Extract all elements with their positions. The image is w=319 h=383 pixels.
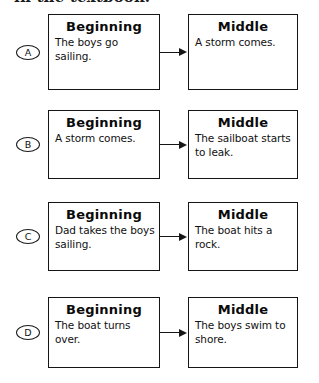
middle-box-heading: Middle — [191, 302, 295, 317]
middle-box[interactable]: MiddleThe sailboat starts to leak. — [188, 110, 298, 179]
flow-arrow-head — [179, 329, 187, 337]
flow-arrow-head — [179, 233, 187, 241]
answer-option-a[interactable]: ABeginningThe boys go sailing.MiddleA st… — [0, 14, 319, 90]
middle-box-text: The boat hits a rock. — [189, 223, 297, 251]
flow-arrow-shaft — [160, 144, 181, 145]
flow-arrow-icon — [160, 232, 188, 241]
middle-box[interactable]: MiddleThe boat hits a rock. — [188, 202, 298, 271]
beginning-box[interactable]: BeginningA storm comes. — [48, 110, 160, 179]
option-letter-badge[interactable]: A — [16, 45, 40, 60]
flow-arrow-head — [179, 141, 187, 149]
answer-option-c[interactable]: CBeginningDad takes the boys sailing.Mid… — [0, 202, 319, 271]
beginning-box-heading: Beginning — [51, 302, 157, 317]
cropped-page-heading-text: in the textbook. — [14, 0, 150, 6]
beginning-box-heading: Beginning — [51, 115, 157, 130]
option-letter-badge[interactable]: D — [16, 325, 40, 340]
flow-arrow-shaft — [160, 236, 181, 237]
middle-box-text: A storm comes. — [189, 35, 297, 49]
beginning-box-text: The boys go sailing. — [49, 35, 159, 63]
middle-box[interactable]: MiddleThe boys swim to shore. — [188, 297, 298, 368]
middle-box-text: The sailboat starts to leak. — [189, 131, 297, 159]
beginning-box[interactable]: BeginningThe boys go sailing. — [48, 14, 160, 90]
beginning-box-heading: Beginning — [51, 19, 157, 34]
flow-arrow-shaft — [160, 52, 181, 53]
middle-box-heading: Middle — [191, 115, 295, 130]
beginning-box-heading: Beginning — [51, 207, 157, 222]
option-letter-badge[interactable]: C — [16, 229, 40, 244]
beginning-box[interactable]: BeginningThe boat turns over. — [48, 297, 160, 368]
answer-option-b[interactable]: BBeginningA storm comes.MiddleThe sailbo… — [0, 110, 319, 179]
beginning-box-text: The boat turns over. — [49, 318, 159, 346]
middle-box-heading: Middle — [191, 19, 295, 34]
middle-box-text: The boys swim to shore. — [189, 318, 297, 346]
middle-box[interactable]: MiddleA storm comes. — [188, 14, 298, 90]
flow-arrow-icon — [160, 328, 188, 337]
option-letter-badge[interactable]: B — [16, 137, 40, 152]
answer-option-d[interactable]: DBeginningThe boat turns over.MiddleThe … — [0, 297, 319, 368]
flow-arrow-icon — [160, 48, 188, 57]
beginning-box[interactable]: BeginningDad takes the boys sailing. — [48, 202, 160, 271]
beginning-box-text: A storm comes. — [49, 131, 159, 145]
flow-arrow-icon — [160, 140, 188, 149]
beginning-box-text: Dad takes the boys sailing. — [49, 223, 159, 251]
cropped-page-heading: in the textbook. — [0, 0, 319, 9]
flow-arrow-head — [179, 48, 187, 56]
middle-box-heading: Middle — [191, 207, 295, 222]
flow-arrow-shaft — [160, 332, 181, 333]
